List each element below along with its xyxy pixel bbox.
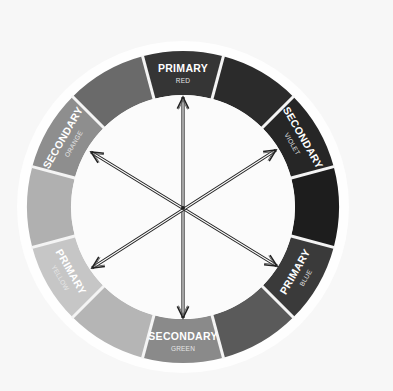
center-point	[181, 206, 185, 210]
label-category: SECONDARY	[148, 330, 217, 342]
color-wheel-diagram: PRIMARYREDSECONDARYVIOLETPRIMARYBLUESECO…	[0, 0, 393, 391]
segment-red	[143, 51, 224, 99]
segment-blue-violet	[291, 167, 339, 248]
segment-yellow-orange	[27, 167, 75, 248]
label-category: PRIMARY	[158, 62, 208, 74]
label-color: RED	[176, 77, 190, 84]
label-color: GREEN	[171, 345, 195, 352]
